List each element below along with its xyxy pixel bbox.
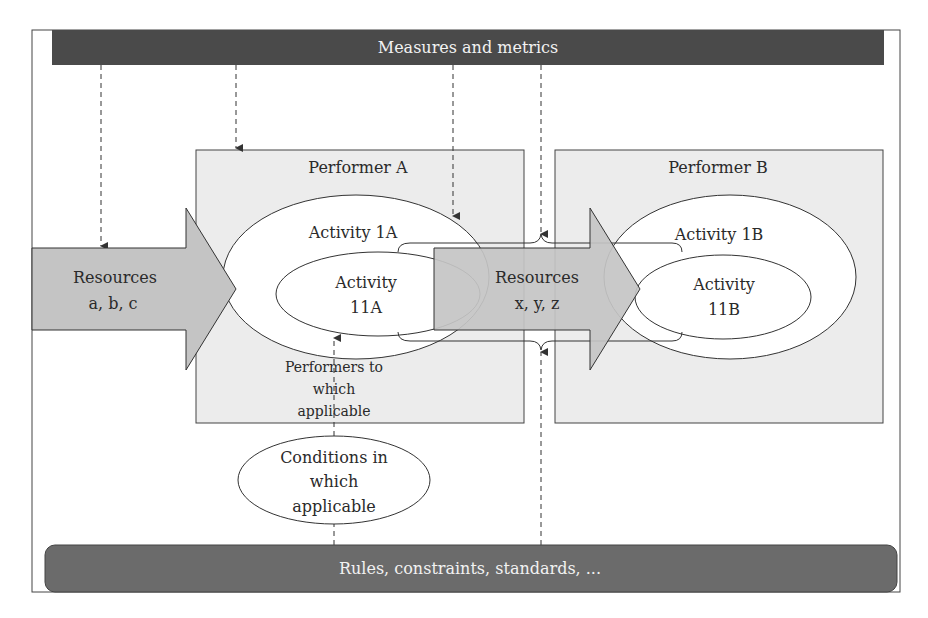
resources-xyz-line2: x, y, z	[515, 294, 560, 313]
measures-and-metrics-label: Measures and metrics	[378, 38, 559, 57]
resources-abc-line2: a, b, c	[88, 294, 137, 313]
performer-a-label: Performer A	[308, 158, 408, 177]
conditions-line2: which	[310, 472, 358, 491]
resources-xyz-line1: Resources	[495, 268, 579, 287]
process-diagram: Measures and metrics Performer A Perform…	[0, 0, 928, 618]
rules-constraints-bar: Rules, constraints, standards, ...	[45, 545, 897, 592]
rules-constraints-label: Rules, constraints, standards, ...	[339, 559, 601, 578]
activity-1a-label: Activity 1A	[308, 223, 398, 242]
activity-1b-label: Activity 1B	[674, 225, 764, 244]
measures-and-metrics-bar: Measures and metrics	[52, 30, 884, 65]
activity-11b-label-line1: Activity	[692, 275, 755, 294]
resources-abc-line1: Resources	[73, 268, 157, 287]
activity-11b-label-line2: 11B	[708, 300, 740, 319]
performer-b-label: Performer B	[668, 158, 768, 177]
conditions-line3: applicable	[292, 497, 376, 516]
conditions-line1: Conditions in	[280, 448, 388, 467]
activity-11b-ellipse	[635, 255, 811, 339]
activity-11a-label-line1: Activity	[334, 273, 397, 292]
activity-11a-label-line2: 11A	[350, 298, 382, 317]
